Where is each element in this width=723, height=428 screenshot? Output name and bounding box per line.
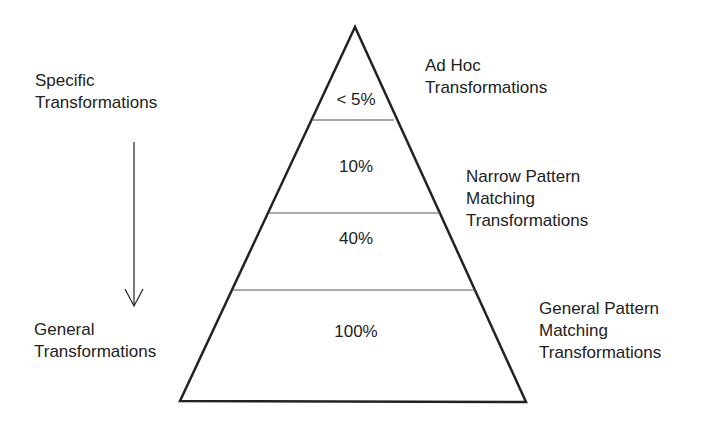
general-pattern-label: General Pattern Matching Transformations — [539, 298, 661, 364]
label-line: Transformations — [539, 342, 661, 364]
tier-percent-general: 100% — [316, 322, 396, 342]
label-line: Ad Hoc — [425, 55, 547, 77]
label-line: Transformations — [425, 77, 547, 99]
arrow-down-icon — [125, 142, 143, 306]
label-line: Transformations — [466, 210, 588, 232]
general-transformations-label: General Transformations — [34, 319, 156, 363]
label-line: Specific — [35, 70, 157, 92]
label-line: Matching — [539, 320, 661, 342]
label-line: General — [34, 319, 156, 341]
label-line: Narrow Pattern — [466, 166, 588, 188]
tier-percent-adhoc: < 5% — [316, 90, 396, 110]
specific-transformations-label: Specific Transformations — [35, 70, 157, 114]
narrow-pattern-label: Narrow Pattern Matching Transformations — [466, 166, 588, 232]
ad-hoc-transformations-label: Ad Hoc Transformations — [425, 55, 547, 99]
tier-percent-mid: 40% — [316, 229, 396, 249]
tier-percent-narrow: 10% — [316, 157, 396, 177]
label-line: General Pattern — [539, 298, 661, 320]
label-line: Matching — [466, 188, 588, 210]
label-line: Transformations — [35, 92, 157, 114]
label-line: Transformations — [34, 341, 156, 363]
